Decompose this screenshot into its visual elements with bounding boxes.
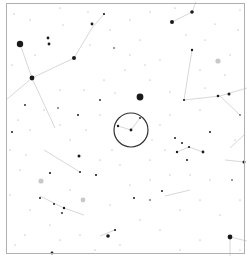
star bbox=[228, 93, 231, 96]
star bbox=[209, 131, 211, 133]
faint-star bbox=[59, 7, 60, 8]
star bbox=[11, 131, 13, 133]
faint-star bbox=[119, 164, 120, 165]
faint-star bbox=[214, 23, 215, 24]
star bbox=[183, 99, 185, 101]
faint-star bbox=[144, 64, 145, 65]
faint-star bbox=[239, 249, 240, 250]
star bbox=[30, 76, 35, 81]
faint-star bbox=[59, 124, 60, 125]
halo-star bbox=[38, 178, 43, 183]
halo-star bbox=[215, 58, 220, 63]
star bbox=[78, 155, 81, 158]
faint-star bbox=[85, 129, 86, 130]
faint-star bbox=[149, 11, 150, 12]
faint-star bbox=[29, 209, 30, 210]
star bbox=[61, 212, 63, 214]
star bbox=[133, 197, 135, 199]
halo-star bbox=[81, 198, 86, 203]
faint-star bbox=[149, 79, 150, 80]
faint-star bbox=[219, 214, 220, 215]
faint-star bbox=[49, 224, 50, 225]
faint-star bbox=[9, 149, 10, 150]
faint-star bbox=[174, 7, 175, 8]
star bbox=[186, 159, 188, 161]
star bbox=[176, 151, 178, 153]
faint-star bbox=[169, 91, 170, 92]
faint-star bbox=[199, 109, 200, 110]
faint-star bbox=[237, 29, 238, 30]
faint-star bbox=[164, 149, 165, 150]
star bbox=[106, 234, 110, 238]
faint-star bbox=[129, 184, 130, 185]
faint-star bbox=[199, 199, 200, 200]
faint-star bbox=[62, 24, 63, 25]
star bbox=[188, 146, 190, 148]
faint-star bbox=[189, 174, 190, 175]
faint-star bbox=[83, 89, 84, 90]
faint-star bbox=[234, 139, 235, 140]
faint-star bbox=[29, 129, 30, 130]
faint-star bbox=[209, 179, 210, 180]
faint-star bbox=[149, 179, 150, 180]
faint-star bbox=[169, 174, 170, 175]
star bbox=[161, 190, 163, 192]
faint-star bbox=[185, 34, 186, 35]
faint-star bbox=[199, 239, 200, 240]
star bbox=[91, 23, 94, 26]
star bbox=[77, 114, 79, 116]
faint-star bbox=[109, 29, 110, 30]
star bbox=[48, 43, 51, 46]
star bbox=[217, 95, 220, 98]
star bbox=[191, 49, 193, 51]
star bbox=[228, 235, 233, 240]
faint-star bbox=[25, 154, 26, 155]
faint-star bbox=[79, 234, 80, 235]
faint-star bbox=[59, 239, 60, 240]
star bbox=[79, 171, 81, 173]
faint-star bbox=[114, 92, 115, 93]
faint-star bbox=[204, 39, 205, 40]
faint-star bbox=[159, 59, 160, 60]
star bbox=[47, 37, 50, 40]
faint-star bbox=[24, 234, 25, 235]
faint-star bbox=[11, 64, 12, 65]
star-chart bbox=[0, 0, 247, 256]
faint-star bbox=[43, 109, 44, 110]
faint-star bbox=[204, 87, 205, 88]
faint-star bbox=[14, 244, 15, 245]
faint-star bbox=[94, 249, 95, 250]
faint-star bbox=[149, 159, 150, 160]
star bbox=[170, 20, 174, 24]
star bbox=[95, 174, 97, 176]
faint-star bbox=[9, 194, 10, 195]
star bbox=[137, 94, 144, 101]
faint-star bbox=[239, 199, 240, 200]
star bbox=[53, 203, 55, 205]
star bbox=[174, 137, 176, 139]
star bbox=[117, 125, 119, 127]
star bbox=[72, 56, 76, 60]
star bbox=[231, 179, 233, 181]
faint-star bbox=[139, 219, 140, 220]
star bbox=[24, 104, 26, 106]
faint-star bbox=[151, 139, 152, 140]
faint-star bbox=[17, 119, 18, 120]
faint-star bbox=[119, 244, 120, 245]
faint-star bbox=[239, 9, 240, 10]
star bbox=[57, 107, 59, 109]
faint-star bbox=[34, 54, 35, 55]
faint-star bbox=[199, 69, 200, 70]
faint-star bbox=[179, 249, 180, 250]
star bbox=[17, 41, 23, 47]
star bbox=[49, 172, 51, 174]
faint-star bbox=[111, 149, 112, 150]
faint-star bbox=[159, 124, 160, 125]
faint-star bbox=[99, 114, 100, 115]
faint-star bbox=[129, 19, 130, 20]
faint-star bbox=[19, 169, 20, 170]
faint-star bbox=[89, 44, 90, 45]
faint-star bbox=[124, 69, 125, 70]
star bbox=[181, 142, 183, 144]
faint-star bbox=[69, 139, 70, 140]
